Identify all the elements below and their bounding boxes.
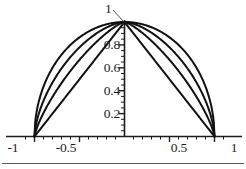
y-tick-label-0-8: 0.8 xyxy=(92,38,120,52)
x-tick-label-neg-0-5: -0.5 xyxy=(48,141,84,155)
plot-figure: 1 0.8 0.6 0.4 0.2 -1 -0.5 0.5 1 xyxy=(0,0,246,169)
plot-canvas xyxy=(0,0,246,169)
x-tick-label-neg-1: -1 xyxy=(0,141,26,155)
x-tick-label-1: 1 xyxy=(222,141,246,155)
y-tick-label-0-4: 0.4 xyxy=(92,84,120,98)
y-tick-label-0-6: 0.6 xyxy=(92,61,120,75)
peak-annotation-leader-line xyxy=(113,10,124,22)
x-tick-label-0-5: 0.5 xyxy=(162,141,196,155)
peak-value-label: 1 xyxy=(105,2,112,16)
y-tick-label-0-2: 0.2 xyxy=(92,107,120,121)
